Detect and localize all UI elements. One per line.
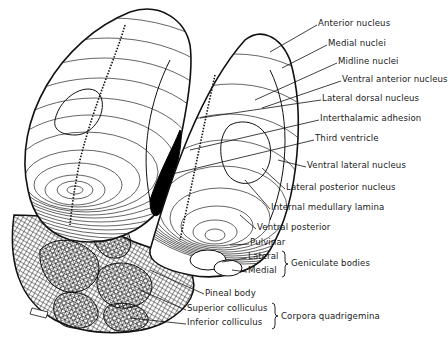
label-ventral-posterior: Ventral posterior bbox=[257, 222, 331, 232]
label-superior-colliculus: Superior colliculus bbox=[187, 303, 268, 313]
label-midline-nuclei: Midline nuclei bbox=[338, 56, 399, 66]
label-ventral-lateral-nucleus: Ventral lateral nucleus bbox=[307, 160, 406, 170]
label-inferior-colliculus: Inferior colliculus bbox=[187, 317, 262, 327]
label-third-ventricle: Third ventricle bbox=[315, 133, 379, 143]
label-corpora-quadrigemina: Corpora quadrigemina bbox=[281, 311, 380, 321]
label-geniculate-bodies: Geniculate bodies bbox=[291, 258, 370, 268]
label-lateral-posterior-nucleus: Lateral posterior nucleus bbox=[286, 182, 396, 192]
label-medial-nuclei: Medial nuclei bbox=[328, 38, 386, 48]
label-lateral-geniculate: Lateral bbox=[248, 251, 279, 261]
label-anterior-nucleus: Anterior nucleus bbox=[318, 18, 390, 28]
label-medial-geniculate: Medial bbox=[248, 265, 277, 275]
label-pineal-body: Pineal body bbox=[205, 288, 256, 298]
label-lateral-dorsal-nucleus: Lateral dorsal nucleus bbox=[322, 93, 419, 103]
label-pulvinar: Pulvinar bbox=[250, 237, 285, 247]
label-ventral-anterior-nucleus: Ventral anterior nucleus bbox=[342, 74, 448, 84]
label-interthalamic-adhesion: Interthalamic adhesion bbox=[320, 113, 421, 123]
label-internal-medullary-lamina: Internal medullary lamina bbox=[271, 202, 384, 212]
